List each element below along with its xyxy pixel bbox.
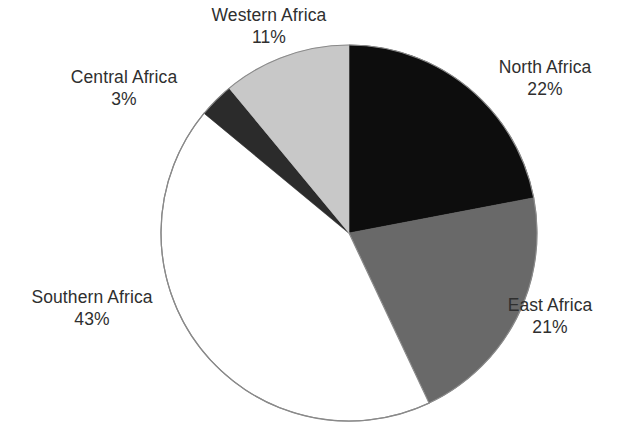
slice-label-southern-africa: Southern Africa 43% — [2, 286, 182, 331]
slice-label-east-africa-name: East Africa — [470, 294, 630, 316]
slice-label-north-africa-name: North Africa — [460, 56, 630, 78]
slice-label-east-africa-value: 21% — [470, 316, 630, 338]
slice-label-western-africa: Western Africa 11% — [174, 4, 364, 49]
slice-label-north-africa: North Africa 22% — [460, 56, 630, 101]
slice-label-east-africa: East Africa 21% — [470, 294, 630, 339]
slice-label-western-africa-value: 11% — [174, 26, 364, 48]
slice-label-central-africa-name: Central Africa — [34, 66, 214, 88]
slice-label-western-africa-name: Western Africa — [174, 4, 364, 26]
slice-label-southern-africa-name: Southern Africa — [2, 286, 182, 308]
slice-label-north-africa-value: 22% — [460, 78, 630, 100]
slice-label-central-africa: Central Africa 3% — [34, 66, 214, 111]
pie-chart-figure: Western Africa 11% Central Africa 3% Nor… — [0, 0, 634, 429]
slice-label-southern-africa-value: 43% — [2, 308, 182, 330]
slice-label-central-africa-value: 3% — [34, 88, 214, 110]
pie-slice-group — [161, 45, 537, 421]
